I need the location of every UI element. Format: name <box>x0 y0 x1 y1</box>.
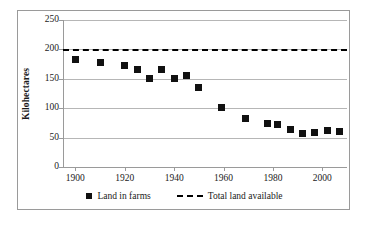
y-gridline <box>63 108 347 109</box>
data-point-marker <box>218 104 225 111</box>
y-tick-label: 0 <box>19 162 59 171</box>
x-tick-label: 2000 <box>302 173 342 183</box>
y-tick-label: 150 <box>19 74 59 83</box>
legend-square-icon <box>86 193 92 199</box>
y-tick-label: 250 <box>19 15 59 24</box>
legend-item: Total land available <box>177 191 283 201</box>
data-point-marker <box>121 62 128 69</box>
x-tick-mark <box>174 167 175 171</box>
series-total-land-available-line <box>63 49 347 51</box>
chart-screenshot: Kilohectares 250200150100500190019201940… <box>0 0 367 226</box>
data-point-marker <box>183 72 190 79</box>
data-point-marker <box>158 66 165 73</box>
y-axis-line <box>63 20 64 167</box>
plot-area: Kilohectares 250200150100500190019201940… <box>18 11 351 211</box>
data-point-marker <box>299 130 306 137</box>
x-axis-line <box>63 167 347 168</box>
data-point-marker <box>274 121 281 128</box>
x-tick-label: 1980 <box>253 173 293 183</box>
data-point-marker <box>242 115 249 122</box>
data-point-marker <box>287 126 294 133</box>
y-tick-label: 50 <box>19 133 59 142</box>
data-point-marker <box>336 128 343 135</box>
chart-legend: Land in farmsTotal land available <box>18 191 351 201</box>
data-point-marker <box>146 75 153 82</box>
x-tick-label: 1960 <box>204 173 244 183</box>
data-point-marker <box>264 120 271 127</box>
x-tick-mark <box>322 167 323 171</box>
x-tick-mark <box>125 167 126 171</box>
y-gridline <box>63 20 347 21</box>
legend-item: Land in farms <box>86 191 150 201</box>
y-gridline <box>63 138 347 139</box>
y-tick-label: 100 <box>19 103 59 112</box>
y-gridline <box>63 79 347 80</box>
legend-label: Land in farms <box>97 191 150 201</box>
legend-label: Total land available <box>208 191 283 201</box>
legend-dashed-line-icon <box>177 195 203 197</box>
x-tick-mark <box>273 167 274 171</box>
data-point-marker <box>72 56 79 63</box>
x-tick-label: 1940 <box>154 173 194 183</box>
data-point-marker <box>195 84 202 91</box>
x-tick-label: 1920 <box>105 173 145 183</box>
chart-frame: Kilohectares 250200150100500190019201940… <box>17 10 350 210</box>
x-tick-mark <box>224 167 225 171</box>
x-tick-mark <box>75 167 76 171</box>
data-point-marker <box>324 127 331 134</box>
y-tick-label: 200 <box>19 44 59 53</box>
data-point-marker <box>171 75 178 82</box>
x-tick-label: 1900 <box>55 173 95 183</box>
data-point-marker <box>97 59 104 66</box>
data-point-marker <box>311 129 318 136</box>
data-point-marker <box>134 66 141 73</box>
